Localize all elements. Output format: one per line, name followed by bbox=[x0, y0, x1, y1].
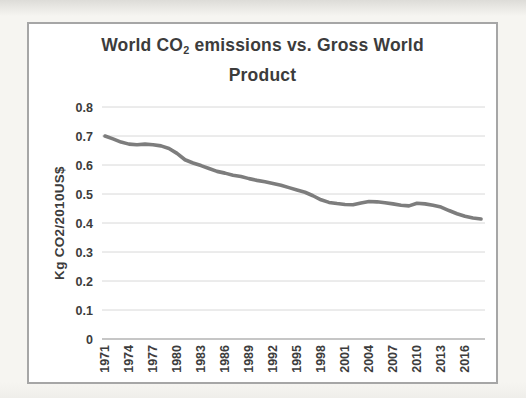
y-tick-label: 0.2 bbox=[76, 275, 93, 289]
x-tick-label: 2001 bbox=[338, 345, 352, 373]
y-tick-label: 0.3 bbox=[76, 246, 93, 260]
scanned-page: World CO2 emissions vs. Gross World Prod… bbox=[0, 0, 526, 398]
y-tick-label: 0.1 bbox=[76, 304, 93, 318]
x-tick-label: 1989 bbox=[242, 345, 256, 373]
chart-area: World CO2 emissions vs. Gross World Prod… bbox=[27, 22, 498, 384]
y-tick-label: 0.5 bbox=[76, 188, 93, 202]
x-tick-label: 2013 bbox=[434, 345, 448, 373]
x-tick-label: 1971 bbox=[98, 345, 112, 373]
y-tick-label: 0.6 bbox=[76, 159, 93, 173]
x-tick-label: 2004 bbox=[362, 345, 376, 373]
x-tick-label: 1995 bbox=[290, 345, 304, 373]
y-tick-label: 0.4 bbox=[76, 217, 93, 231]
co2-intensity-series-line bbox=[105, 136, 481, 219]
x-tick-label: 1974 bbox=[122, 345, 136, 373]
y-tick-label: 0.8 bbox=[76, 101, 93, 115]
y-tick-label: 0.7 bbox=[76, 130, 93, 144]
x-tick-label: 1986 bbox=[218, 345, 232, 373]
x-tick-label: 2007 bbox=[386, 345, 400, 373]
x-tick-label: 1992 bbox=[266, 345, 280, 373]
x-tick-label: 2016 bbox=[458, 345, 472, 373]
x-tick-label: 1998 bbox=[314, 345, 328, 373]
x-tick-label: 2010 bbox=[410, 345, 424, 373]
x-tick-label: 1980 bbox=[170, 345, 184, 373]
y-tick-label: 0 bbox=[86, 333, 93, 347]
x-tick-label: 1983 bbox=[194, 345, 208, 373]
plot-svg: 00.10.20.30.40.50.60.70.8197119741977198… bbox=[29, 24, 500, 386]
x-tick-label: 1977 bbox=[146, 345, 160, 373]
